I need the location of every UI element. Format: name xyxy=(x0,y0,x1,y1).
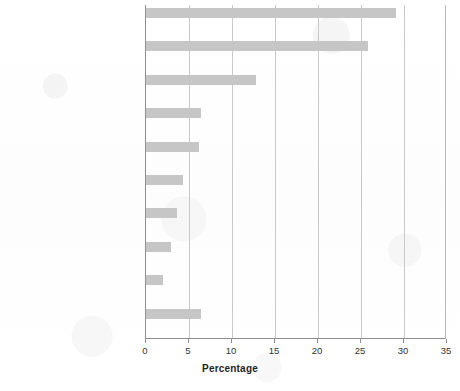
x-tick-mark-35 xyxy=(446,339,447,343)
bar-row xyxy=(146,306,445,339)
bar[interactable] xyxy=(146,208,177,218)
x-axis-title: Percentage xyxy=(0,363,460,374)
bar-row xyxy=(146,205,445,238)
bar[interactable] xyxy=(146,41,368,51)
bar-row xyxy=(146,272,445,305)
x-tick-label-20: 20 xyxy=(312,345,323,356)
bar-row xyxy=(146,105,445,138)
bar[interactable] xyxy=(146,175,183,185)
x-tick-label-30: 30 xyxy=(398,345,409,356)
bar[interactable] xyxy=(146,242,171,252)
bar[interactable] xyxy=(146,275,163,285)
x-tick-label-10: 10 xyxy=(226,345,237,356)
x-tick-mark-10 xyxy=(231,339,232,343)
bar[interactable] xyxy=(146,75,256,85)
x-tick-label-15: 15 xyxy=(269,345,280,356)
bar[interactable] xyxy=(146,108,201,118)
bar-rows xyxy=(146,5,445,338)
x-tick-mark-15 xyxy=(274,339,275,343)
x-tick-label-25: 25 xyxy=(355,345,366,356)
x-tick-label-0: 0 xyxy=(142,345,147,356)
bar-row xyxy=(146,172,445,205)
x-tick-mark-30 xyxy=(403,339,404,343)
bar[interactable] xyxy=(146,8,396,18)
x-tick-mark-5 xyxy=(188,339,189,343)
bar-row xyxy=(146,5,445,38)
plot-area xyxy=(145,5,446,339)
bar-row xyxy=(146,72,445,105)
x-tick-mark-20 xyxy=(317,339,318,343)
x-tick-label-35: 35 xyxy=(441,345,452,356)
bar-row xyxy=(146,239,445,272)
x-tick-mark-0 xyxy=(145,339,146,343)
bar[interactable] xyxy=(146,309,201,319)
x-tick-label-5: 5 xyxy=(185,345,190,356)
bar[interactable] xyxy=(146,142,199,152)
x-tick-mark-25 xyxy=(360,339,361,343)
bar-row xyxy=(146,139,445,172)
horizontal-bar-chart: Cardiovascular diseasesInfectious and pa… xyxy=(0,0,460,391)
bar-row xyxy=(146,38,445,71)
